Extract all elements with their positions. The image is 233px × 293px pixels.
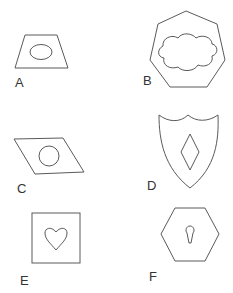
parallelogram-shape [14,138,84,174]
circle-shape [39,146,59,166]
keyhole-shape [186,226,194,243]
cloud-shape [159,34,217,71]
panel-f [161,208,219,261]
label-b: B [143,74,152,87]
panel-a [15,35,68,68]
panel-d [159,115,218,188]
trapezoid-shape [15,35,68,68]
panel-e [32,213,80,263]
hexagon-shape [161,208,219,261]
heart-shape [45,228,67,250]
shield-shape [159,115,218,188]
figure-canvas [0,0,233,293]
label-d: D [147,179,156,192]
panel-c [14,138,84,174]
label-e: E [20,274,29,287]
label-a: A [15,76,24,89]
diamond-shape [181,134,199,170]
heptagon-shape [150,11,225,87]
label-f: F [149,270,157,283]
ellipse-shape [30,45,52,60]
panel-b [150,11,225,87]
square-shape [32,213,80,263]
label-c: C [17,182,26,195]
